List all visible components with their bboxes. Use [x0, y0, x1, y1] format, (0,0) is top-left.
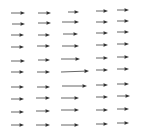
vector-arrow — [11, 110, 24, 114]
arrow-head-icon — [20, 45, 25, 49]
arrow-head-icon — [125, 30, 130, 34]
vector-arrow — [61, 57, 80, 61]
arrow-head-icon — [20, 70, 25, 74]
arrow-head-icon — [104, 108, 109, 112]
arrow-head-icon — [21, 22, 26, 26]
vector-arrow — [117, 67, 129, 71]
vector-arrow — [61, 108, 79, 112]
arrow-head-icon — [126, 94, 131, 98]
vector-arrows — [11, 8, 130, 127]
arrow-head-icon — [46, 33, 51, 37]
arrow-head-icon — [75, 96, 80, 100]
vector-arrow — [63, 32, 78, 36]
vector-arrow — [96, 108, 108, 112]
vector-arrow — [96, 43, 108, 47]
vector-arrow — [11, 59, 25, 63]
arrow-head-icon — [104, 56, 109, 60]
vector-arrow — [96, 20, 108, 24]
vector-arrow — [38, 21, 51, 25]
arrow-head-icon — [104, 43, 109, 47]
vector-arrow — [96, 122, 108, 126]
vector-arrow — [11, 97, 24, 101]
vector-arrow — [96, 95, 108, 99]
arrow-head-icon — [83, 84, 88, 88]
vector-arrow — [117, 121, 129, 125]
arrow-head-icon — [46, 58, 51, 62]
quiver-plot — [0, 0, 145, 133]
arrow-head-icon — [125, 19, 130, 23]
vector-arrow — [11, 11, 25, 15]
arrow-head-icon — [104, 83, 109, 87]
vector-arrow — [61, 69, 89, 73]
arrow-head-icon — [125, 82, 130, 86]
arrow-head-icon — [125, 42, 130, 46]
arrow-head-icon — [125, 107, 130, 111]
arrow-shaft — [61, 71, 85, 72]
vector-arrow — [11, 33, 24, 37]
arrow-head-icon — [74, 32, 79, 36]
vector-arrow — [96, 31, 108, 35]
vector-arrow — [11, 70, 24, 74]
vector-arrow — [11, 85, 24, 89]
vector-arrow — [117, 8, 129, 12]
vector-arrow — [117, 82, 129, 86]
arrow-head-icon — [20, 97, 25, 101]
vector-arrow — [117, 55, 129, 59]
arrow-head-icon — [47, 21, 52, 25]
arrow-head-icon — [104, 9, 109, 13]
arrow-head-icon — [104, 95, 109, 99]
arrow-head-icon — [20, 85, 25, 89]
arrow-head-icon — [46, 109, 51, 113]
vector-arrow — [38, 58, 50, 62]
arrow-head-icon — [125, 121, 130, 125]
vector-arrow — [11, 123, 24, 127]
arrow-head-icon — [104, 68, 109, 72]
arrow-head-icon — [75, 44, 80, 48]
vector-arrow — [37, 44, 50, 48]
vector-arrow — [68, 10, 79, 14]
arrow-head-icon — [75, 20, 80, 24]
arrow-head-icon — [125, 67, 130, 71]
arrow-head-icon — [125, 8, 130, 12]
arrow-head-icon — [104, 122, 109, 126]
arrow-head-icon — [21, 59, 26, 63]
vector-arrow — [11, 45, 24, 49]
vector-arrow — [96, 83, 108, 87]
vector-arrow — [36, 109, 50, 113]
vector-arrow — [96, 9, 108, 13]
vector-arrow — [36, 123, 50, 127]
arrow-head-icon — [75, 123, 80, 127]
arrow-head-icon — [46, 70, 51, 74]
arrow-head-icon — [20, 123, 25, 127]
arrow-head-icon — [46, 123, 51, 127]
vector-arrow — [117, 42, 129, 46]
vector-arrow — [38, 11, 51, 15]
vector-arrow — [62, 44, 79, 48]
arrow-head-icon — [104, 20, 109, 24]
arrow-head-icon — [125, 55, 130, 59]
vector-arrow — [117, 94, 130, 98]
arrow-head-icon — [76, 57, 81, 61]
vector-arrow — [96, 56, 108, 60]
vector-arrow — [117, 19, 129, 23]
arrow-head-icon — [104, 31, 109, 35]
vector-arrow — [36, 96, 50, 100]
arrow-head-icon — [84, 69, 89, 73]
vector-arrow — [37, 70, 50, 74]
vector-arrow — [37, 85, 50, 89]
vector-arrow — [62, 84, 87, 88]
vector-arrow — [62, 20, 79, 24]
arrow-head-icon — [46, 85, 51, 89]
arrow-head-icon — [75, 108, 80, 112]
vector-arrow — [96, 68, 108, 72]
arrow-head-icon — [47, 11, 52, 15]
arrow-head-icon — [20, 33, 25, 37]
arrow-head-icon — [46, 44, 51, 48]
arrow-head-icon — [20, 110, 25, 114]
arrow-head-icon — [21, 11, 26, 15]
arrow-head-icon — [75, 10, 80, 14]
vector-arrow — [38, 33, 50, 37]
vector-arrow — [61, 123, 79, 127]
vector-arrow — [61, 96, 79, 100]
vector-arrow — [12, 22, 25, 26]
